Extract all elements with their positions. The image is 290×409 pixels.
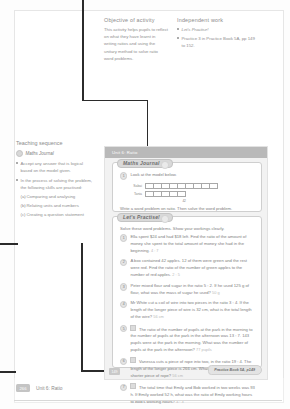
maths-journal-tag: Maths Journal — [117, 159, 173, 168]
connector-left-stub-upper — [0, 243, 18, 245]
question-text: Peter mixed flour and sugar in the ratio… — [130, 283, 249, 295]
textbook-header-title: Unit 6: Ratio — [112, 150, 138, 155]
teaching-bullet-1: In the process of solving the problem, t… — [21, 178, 92, 190]
maths-journal-prompt-row: 1 Look at the model below. — [120, 172, 254, 180]
objective-body: This activity helps pupils to reflect on… — [104, 26, 168, 63]
question-answer: 2 : 5 — [172, 272, 180, 277]
bar-model-diagram: Sabai Tania 42 — [129, 183, 254, 203]
question-number-badge: 1 — [120, 234, 127, 241]
question-answer: 77 pupils — [196, 347, 212, 352]
skill-label-a: (a) — [21, 193, 26, 200]
bar-label-0: Sabai — [129, 184, 145, 188]
lets-practise-title: Let's Practise! — [123, 214, 160, 220]
question-number-badge: 5 — [120, 325, 127, 332]
bar-model-row-1: Tania — [129, 191, 254, 197]
list-item: 1 Ella spent $24 and had $18 left. Find … — [120, 234, 256, 255]
question-text: Ella spent $24 and had $18 left. Find th… — [130, 234, 246, 253]
list-item: (c) Creating a question statement — [21, 211, 95, 218]
bar-model-row-0: Sabai — [129, 183, 254, 189]
bar-model-brace-label: 42 — [145, 199, 223, 203]
list-item: 3 Peter mixed flour and sugar in the rat… — [120, 283, 256, 297]
question-answer: 50 g — [212, 290, 220, 295]
bullet-circle-icon — [16, 150, 23, 157]
skill-text-b: Relating units and numbers — [27, 203, 79, 208]
list-item: Let's Practise! — [177, 26, 257, 33]
question-number-badge: 4 — [120, 301, 127, 308]
objective-column: Objective of activity This activity help… — [104, 17, 168, 62]
maths-journal-title: Maths Journal — [123, 160, 160, 166]
teaching-subheading-row: Maths Journal — [16, 150, 94, 157]
textbook-page-preview: Unit 6: Ratio Maths Journal 1 Look at th… — [104, 146, 268, 380]
textbook-page-number: 149 — [109, 368, 120, 375]
connector-horizontal-main — [82, 100, 148, 102]
lets-practise-intro: Solve these word problems. Show your wor… — [120, 226, 254, 231]
question-answer: 56 cm — [172, 373, 183, 378]
independent-work-list: Let's Practise! Practice 3 in Practice B… — [177, 26, 257, 50]
starred-question-icon — [130, 357, 136, 363]
textbook-header-bar: Unit 6: Ratio — [105, 147, 267, 158]
skill-text-c: Creating a question statement — [27, 212, 84, 217]
skill-label-c: (c) — [21, 211, 26, 218]
lets-practise-tag: Let's Practise! — [117, 213, 173, 222]
question-number-badge: 2 — [120, 259, 127, 266]
list-item: 5 The ratio of the number of pupils at t… — [120, 325, 256, 354]
teaching-bullet-list: Accept any answer that is logical based … — [16, 160, 94, 218]
journal-decoration-icon — [161, 161, 169, 169]
objective-heading: Objective of activity — [104, 17, 168, 23]
teaching-skills-list: (a) Comparing and analysing (b) Relating… — [21, 193, 95, 218]
question-text-row: The total time that Emily and Bob worked… — [130, 383, 256, 405]
independent-work-column: Independent work Let's Practise! Practic… — [177, 17, 257, 62]
bar-label-1: Tania — [129, 192, 145, 196]
maths-journal-body: 1 Look at the model below. Sabai Tania — [120, 172, 254, 211]
question-number-badge: 6 — [120, 358, 127, 365]
connector-vertical-left — [81, 243, 83, 371]
teaching-bullet-0: Accept any answer that is logical based … — [21, 161, 83, 173]
list-item: (a) Comparing and analysing — [21, 193, 95, 200]
question-number-badge: 7 — [120, 384, 127, 391]
question-text-row: Mr White cut a coil of wire into two pie… — [130, 300, 256, 321]
independent-work-heading: Independent work — [177, 17, 257, 23]
question-answer: 56 cm — [153, 314, 164, 319]
connector-vertical-top — [82, 0, 84, 8]
maths-journal-prompt: Look at the model below. — [130, 172, 176, 179]
practice-book-callout: Practice Book 5A, p149 — [208, 365, 262, 375]
question-text-row: A box contained 42 apples. 12 of them we… — [130, 258, 256, 279]
question-number-badge: 1 — [120, 172, 127, 179]
question-text-row: The ratio of the number of pupils at the… — [130, 325, 256, 354]
list-item: (b) Relating units and numbers — [21, 202, 95, 209]
list-item: 4 Mr White cut a coil of wire into two p… — [120, 300, 256, 321]
list-item: Practice 3 in Practice Book 5A, pp 149 t… — [177, 35, 257, 50]
list-item: Accept any answer that is logical based … — [16, 160, 94, 175]
teaching-sequence: Teaching sequence Maths Journal Accept a… — [16, 140, 94, 220]
question-text: The ratio of the number of pupils at the… — [130, 326, 252, 352]
lets-practise-panel: Let's Practise! Solve these word problem… — [112, 216, 262, 368]
page-footer: 266 Unit 6: Ratio — [16, 384, 62, 392]
footer-page-number: 266 — [16, 384, 30, 392]
connector-vertical-main — [82, 8, 84, 101]
skill-label-b: (b) — [21, 202, 26, 209]
guide-page: Objective of activity This activity help… — [0, 0, 290, 409]
connector-left-stub-lower — [0, 371, 16, 373]
practise-decoration-icon — [161, 215, 169, 223]
maths-journal-footer: Write a word problem on ratio. Then solv… — [120, 206, 254, 211]
footer-unit-label: Unit 6: Ratio — [36, 386, 62, 391]
list-item: 2 A box contained 42 apples. 12 of them … — [120, 258, 256, 279]
bar-cells-1 — [145, 191, 185, 197]
list-item: 7 The total time that Emily and Bob work… — [120, 383, 256, 405]
teaching-sequence-heading: Teaching sequence — [16, 140, 94, 146]
list-item: In the process of solving the problem, t… — [16, 177, 94, 218]
footer-rule — [14, 400, 282, 401]
starred-question-icon — [130, 383, 136, 389]
lets-practise-question-list: 1 Ella spent $24 and had $18 left. Find … — [120, 234, 256, 409]
practice-book-callout-label: Practice Book 5A, p149 — [214, 368, 255, 372]
question-text: The total time that Emily and Bob worked… — [130, 385, 255, 404]
question-text: Mr White cut a coil of wire into two pie… — [130, 300, 251, 319]
question-text-row: Ella spent $24 and had $18 left. Find th… — [130, 234, 256, 255]
bar-cells-0 — [145, 183, 217, 189]
independent-work-item-1: Practice 3 in Practice Book 5A, pp 149 t… — [182, 36, 255, 48]
maths-journal-panel: Maths Journal 1 Look at the model below.… — [112, 162, 262, 212]
skill-text-a: Comparing and analysing — [27, 194, 76, 199]
starred-question-icon — [130, 325, 136, 331]
notes-columns: Objective of activity This activity help… — [104, 17, 276, 62]
question-text: A box contained 42 apples. 12 of them we… — [130, 258, 247, 277]
